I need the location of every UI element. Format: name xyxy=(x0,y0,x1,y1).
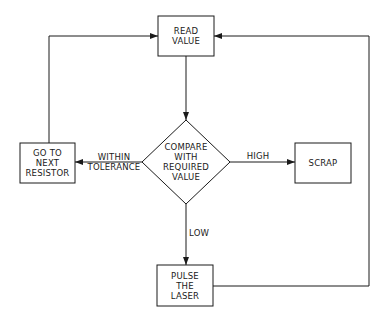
go-to-next-label: GO TO NEXT RESISTOR xyxy=(20,143,75,183)
go-to-next-line-1: GO TO xyxy=(33,148,62,158)
compare-line-3: REQUIRED xyxy=(163,162,209,172)
read-value-line-2: VALUE xyxy=(172,36,200,46)
pulse-laser-line-3: LASER xyxy=(171,291,199,301)
compare-line-1: COMPARE xyxy=(164,142,207,152)
within-tolerance-label: WITHIN TOLERANCE xyxy=(86,150,142,174)
within-line-2: TOLERANCE xyxy=(88,162,141,172)
pulse-laser-line-2: THE xyxy=(176,281,194,291)
read-value-line-1: READ xyxy=(174,26,198,36)
within-line-1: WITHIN xyxy=(98,152,131,162)
read-value-label: READ VALUE xyxy=(158,16,214,56)
low-label: LOW xyxy=(189,228,209,238)
high-label: HIGH xyxy=(244,151,272,161)
edge-next-to-read xyxy=(49,36,158,143)
pulse-laser-label: PULSE THE LASER xyxy=(157,265,213,306)
go-to-next-line-3: RESISTOR xyxy=(26,168,70,178)
compare-label: COMPARE WITH REQUIRED VALUE xyxy=(142,136,230,188)
compare-line-2: WITH xyxy=(174,152,197,162)
go-to-next-line-2: NEXT xyxy=(36,158,59,168)
pulse-laser-line-1: PULSE xyxy=(171,271,199,281)
scrap-label: SCRAP xyxy=(295,143,351,183)
scrap-line-1: SCRAP xyxy=(309,158,338,168)
compare-line-4: VALUE xyxy=(172,172,200,182)
